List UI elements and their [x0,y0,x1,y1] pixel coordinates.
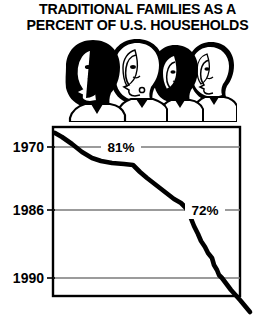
head-figure-1 [66,40,125,122]
line-chart: 81% 72% 1970 1986 1990 [0,120,275,322]
label-72-text: 72% [191,203,218,218]
infographic-root: TRADITIONAL FAMILIES AS A PERCENT OF U.S… [0,0,275,322]
annotation-81: 81% [101,138,141,156]
axis-label-1990: 1990 [13,270,44,286]
axis-label-1970: 1970 [13,139,44,155]
family-heads-illustration [57,36,237,122]
label-81-text: 81% [107,140,134,155]
annotation-72: 72% [185,201,225,219]
page-title: TRADITIONAL FAMILIES AS A PERCENT OF U.S… [0,1,275,33]
title-line-1: TRADITIONAL FAMILIES AS A [0,1,275,17]
axis-label-1986: 1986 [13,202,44,218]
title-line-2: PERCENT OF U.S. HOUSEHOLDS [0,17,275,33]
